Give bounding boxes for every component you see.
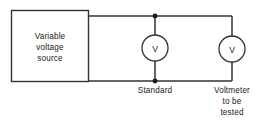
source-box-label-line-1: Variable [11, 31, 89, 42]
source-box-label: Variable voltage source [11, 31, 89, 64]
circuit-diagram: V V Variable voltage source Standard Vol… [0, 0, 271, 125]
source-box-label-line-3: source [11, 53, 89, 64]
top-junction-dot [153, 14, 158, 19]
tested-meter-symbol: V [229, 45, 235, 55]
standard-meter-label: Standard [120, 85, 190, 96]
tested-meter-label-line-3: tested [197, 107, 267, 118]
source-box-label-line-2: voltage [11, 42, 89, 53]
bottom-junction-dot [153, 79, 158, 84]
standard-meter-symbol: V [152, 44, 158, 54]
tested-meter-label-line-1: Voltmeter [197, 85, 267, 96]
tested-meter-label: Voltmeter to be tested [197, 85, 267, 118]
standard-meter-label-line-1: Standard [120, 85, 190, 96]
tested-meter-label-line-2: to be [197, 96, 267, 107]
